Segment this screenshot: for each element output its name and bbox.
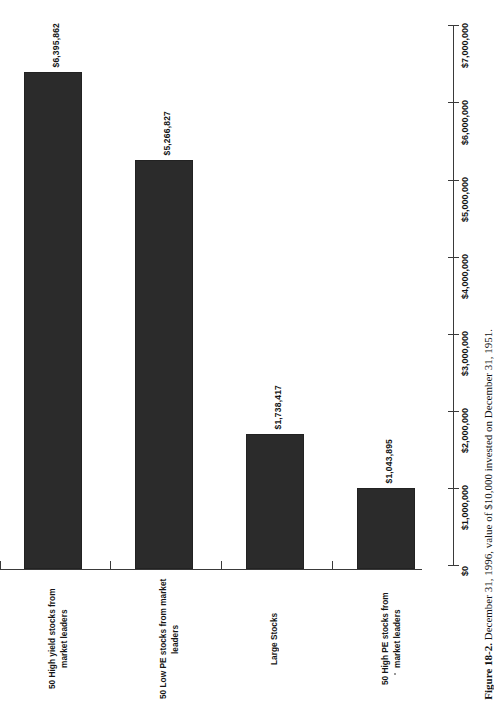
value-axis-tick-label: $7,000,000 <box>461 2 470 68</box>
category-label-high-pe: 50 High PE stocks from market leaders <box>379 578 405 700</box>
figure-caption-text: December 31, 1996, value of $10,000 inve… <box>482 329 494 643</box>
category-axis-tick <box>221 561 222 570</box>
bar-value-label: $1,043,895 <box>385 439 394 484</box>
value-axis-tick <box>448 334 459 335</box>
bar-group[interactable]: $5,266,827 <box>135 160 193 569</box>
bar[interactable] <box>135 160 193 569</box>
figure-container: $6,395,862 $5,266,827 $1,738,417 $1,043,… <box>0 0 496 704</box>
bar-group[interactable]: $6,395,862 <box>24 72 82 569</box>
value-axis-tick <box>448 25 459 26</box>
value-axis-tick <box>448 180 459 181</box>
category-axis-tick <box>110 561 111 570</box>
value-axis-tick-label: $4,000,000 <box>461 233 470 299</box>
category-label-large-stocks: Large Stocks <box>268 578 294 700</box>
value-axis-tick-label: $1,000,000 <box>461 464 470 530</box>
category-axis-tick <box>0 561 1 570</box>
value-axis-tick-label: $5,000,000 <box>461 156 470 222</box>
category-label-high-yield: 50 High yield stocks from market leaders <box>46 578 72 700</box>
category-label-low-pe: 50 Low PE stocks from market leaders <box>157 578 183 700</box>
value-axis-tick <box>448 102 459 103</box>
bar[interactable] <box>357 488 415 569</box>
value-axis-tick-label: $2,000,000 <box>461 387 470 453</box>
bar[interactable] <box>246 434 304 569</box>
category-axis-tick <box>332 561 333 570</box>
scan-speck <box>394 673 396 675</box>
bar-value-label: $6,395,862 <box>52 23 61 68</box>
value-axis-tick <box>448 257 459 258</box>
figure-caption: Figure 18-2. December 31, 1996, value of… <box>483 329 494 700</box>
bar[interactable] <box>24 72 82 569</box>
plot-area: $6,395,862 $5,266,827 $1,738,417 $1,043,… <box>0 0 440 570</box>
bar-group[interactable]: $1,043,895 <box>357 488 415 569</box>
value-axis-tick <box>448 488 459 489</box>
value-axis-tick-label: $6,000,000 <box>461 79 470 145</box>
bar-value-label: $5,266,827 <box>163 111 172 156</box>
value-axis-tick <box>448 411 459 412</box>
bar-value-label: $1,738,417 <box>274 385 283 430</box>
bar-group[interactable]: $1,738,417 <box>246 434 304 569</box>
value-axis-tick-label: $0 <box>461 554 470 576</box>
value-axis-line <box>453 25 454 566</box>
value-axis-tick-label: $3,000,000 <box>461 310 470 376</box>
category-axis-line <box>0 569 422 570</box>
value-axis-tick <box>448 565 459 566</box>
figure-number: Figure 18-2. <box>482 643 494 700</box>
